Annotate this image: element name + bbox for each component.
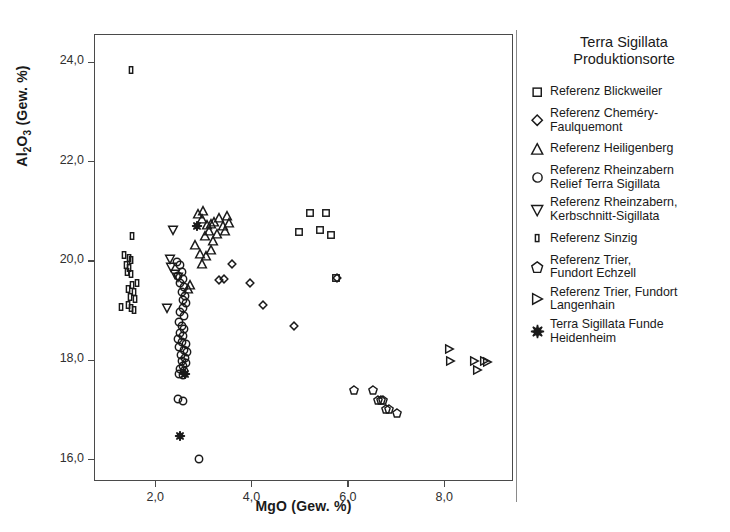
data-point-square xyxy=(305,207,316,218)
data-point-rect-tall xyxy=(126,65,136,75)
legend-item-label: Referenz Trier, Fundort Echzell xyxy=(550,254,636,281)
data-point-star xyxy=(179,369,190,380)
legend: Terra Sigillata Produktionsorte Referenz… xyxy=(524,28,724,350)
data-point-diamond xyxy=(244,277,255,288)
x-tick-mark xyxy=(251,480,252,487)
plot-area xyxy=(95,35,512,480)
data-point-triangle-down xyxy=(162,302,173,313)
y-tick-label: 24,0 xyxy=(60,53,84,67)
data-point-circle xyxy=(177,395,189,407)
y-axis-label-tail: (Gew. %) xyxy=(14,65,30,129)
data-point-triangle-down xyxy=(172,272,183,283)
data-point-triangle-up xyxy=(205,244,216,255)
legend-item[interactable]: Referenz Rheinzabern, Kerbschnitt-Sigill… xyxy=(524,196,724,223)
data-point-diamond xyxy=(218,274,229,285)
y-tick-label: 18,0 xyxy=(60,351,84,365)
y-axis-label: Al2O3 (Gew. %) xyxy=(14,36,33,196)
y-tick-label: 22,0 xyxy=(60,153,84,167)
data-point-diamond xyxy=(258,299,269,310)
legend-item[interactable]: Referenz Blickweiler xyxy=(524,82,724,102)
legend-marker-star-icon xyxy=(524,322,550,342)
data-point-triangle-up xyxy=(197,259,208,270)
legend-item-label: Referenz Cheméry- Faulquemont xyxy=(550,107,658,134)
legend-item[interactable]: Referenz Cheméry- Faulquemont xyxy=(524,107,724,134)
data-point-square xyxy=(314,224,325,235)
data-point-diamond xyxy=(288,320,299,331)
legend-marker-triangle-right-icon xyxy=(524,289,550,309)
x-tick-mark xyxy=(155,480,156,487)
data-point-circle xyxy=(193,453,205,465)
data-point-diamond xyxy=(227,259,238,270)
legend-item-label: Referenz Rheinzabern Relief Terra Sigill… xyxy=(550,164,674,191)
data-point-triangle-right xyxy=(445,356,456,367)
data-point-pentagon xyxy=(348,385,359,396)
y-tick-mark xyxy=(88,360,95,361)
legend-items: Referenz BlickweilerReferenz Cheméry- Fa… xyxy=(524,82,724,345)
legend-marker-rect-tall-icon xyxy=(524,229,550,249)
data-point-triangle-up xyxy=(224,217,235,228)
x-tick-label: 6,0 xyxy=(339,490,356,504)
legend-item[interactable]: Referenz Trier, Fundort Langenhain xyxy=(524,286,724,313)
legend-item[interactable]: Referenz Trier, Fundort Echzell xyxy=(524,254,724,281)
y-tick-label: 20,0 xyxy=(60,252,84,266)
legend-item[interactable]: Referenz Heiligenberg xyxy=(524,139,724,159)
y-tick-mark xyxy=(88,459,95,460)
data-point-triangle-right xyxy=(444,344,455,355)
y-tick-mark xyxy=(88,260,95,261)
legend-item-label: Terra Sigillata Funde Heidenheim xyxy=(550,318,664,345)
legend-marker-pentagon-icon xyxy=(524,257,550,277)
data-point-square xyxy=(320,207,331,218)
legend-item-label: Referenz Trier, Fundort Langenhain xyxy=(550,286,677,313)
data-point-square xyxy=(293,226,304,237)
data-point-rect-tall xyxy=(129,305,139,315)
data-point-star xyxy=(175,430,186,441)
legend-marker-diamond-icon xyxy=(524,111,550,131)
legend-item-label: Referenz Blickweiler xyxy=(550,85,662,99)
data-point-triangle-right xyxy=(472,365,483,376)
y-axis-label-text: Al xyxy=(14,152,30,166)
legend-marker-triangle-up-icon xyxy=(524,139,550,159)
data-point-rect-tall xyxy=(127,231,137,241)
plot-frame: 16,018,020,022,024,02,04,06,08,0 xyxy=(94,34,513,481)
x-tick-label: 2,0 xyxy=(146,490,163,504)
x-tick-label: 8,0 xyxy=(435,490,452,504)
legend-marker-triangle-down-icon xyxy=(524,200,550,220)
legend-item[interactable]: Referenz Sinzig xyxy=(524,229,724,249)
legend-item[interactable]: Terra Sigillata Funde Heidenheim xyxy=(524,318,724,345)
data-point-square xyxy=(326,229,337,240)
y-tick-label: 16,0 xyxy=(60,451,84,465)
data-point-triangle-right xyxy=(481,356,492,367)
y-tick-mark xyxy=(88,62,95,63)
y-axis-label-sub-2: 3 xyxy=(22,130,33,136)
legend-item-label: Referenz Heiligenberg xyxy=(550,142,673,156)
x-tick-mark xyxy=(444,480,445,487)
data-point-pentagon xyxy=(391,407,402,418)
legend-title: Terra Sigillata Produktionsorte xyxy=(524,34,724,68)
legend-marker-square-icon xyxy=(524,82,550,102)
data-point-triangle-down xyxy=(167,224,178,235)
data-point-star xyxy=(191,221,202,232)
scatter-plot-figure: Al2O3 (Gew. %) MgO (Gew. %) 16,018,020,0… xyxy=(0,0,730,532)
data-point-diamond xyxy=(332,273,343,284)
legend-divider xyxy=(516,30,517,502)
legend-marker-circle-icon xyxy=(524,168,550,188)
legend-item-label: Referenz Sinzig xyxy=(550,232,637,246)
data-point-rect-tall xyxy=(126,269,136,279)
legend-item-label: Referenz Rheinzabern, Kerbschnitt-Sigill… xyxy=(550,196,677,223)
x-tick-label: 4,0 xyxy=(243,490,260,504)
x-tick-mark xyxy=(347,480,348,487)
data-point-triangle-up xyxy=(198,206,209,217)
y-tick-mark xyxy=(88,161,95,162)
y-axis-label-mid: O xyxy=(14,135,30,146)
y-axis-label-sub-1: 2 xyxy=(22,147,33,153)
legend-item[interactable]: Referenz Rheinzabern Relief Terra Sigill… xyxy=(524,164,724,191)
